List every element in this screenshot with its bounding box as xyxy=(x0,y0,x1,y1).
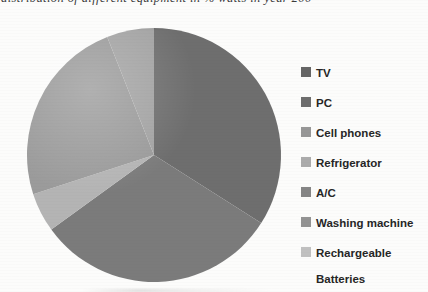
scanned-pie-chart-figure: distribution of different equipment in %… xyxy=(0,0,428,292)
legend-item-cell-phones: Cell phones xyxy=(301,124,427,146)
legend-swatch-washing-machine xyxy=(301,217,311,227)
legend-label-pc: PC xyxy=(316,90,332,116)
legend-item-rechargeable-batteries: Rechargeable Batteries xyxy=(301,244,427,292)
chart-legend: TVPCCell phonesRefrigeratorA/CWashing ma… xyxy=(301,64,427,292)
legend-label-refrigerator: Refrigerator xyxy=(316,150,382,176)
legend-swatch-tv xyxy=(301,67,311,77)
legend-label-washing-machine: Washing machine xyxy=(316,210,413,236)
legend-label-tv: TV xyxy=(316,60,331,86)
legend-swatch-cell-phones xyxy=(301,127,311,137)
legend-item-tv: TV xyxy=(301,64,427,86)
legend-swatch-pc xyxy=(301,97,311,107)
legend-item-pc: PC xyxy=(301,94,427,116)
legend-label-rechargeable-batteries: Rechargeable Batteries xyxy=(316,240,391,292)
legend-swatch-a-c xyxy=(301,187,311,197)
legend-label-a-c: A/C xyxy=(316,180,336,206)
legend-item-washing-machine: Washing machine xyxy=(301,214,427,236)
legend-swatch-rechargeable-batteries xyxy=(301,247,311,257)
legend-item-refrigerator: Refrigerator xyxy=(301,154,427,176)
legend-swatch-refrigerator xyxy=(301,157,311,167)
legend-label-cell-phones: Cell phones xyxy=(316,120,381,146)
legend-item-a-c: A/C xyxy=(301,184,427,206)
